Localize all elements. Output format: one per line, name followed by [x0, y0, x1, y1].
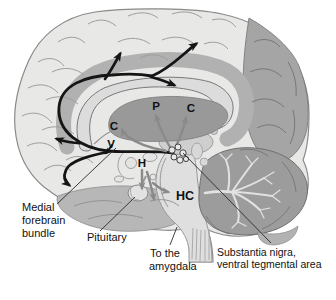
letter-caudate-left: C [110, 120, 118, 132]
label-medial-forebrain-bundle-line3: bundle [22, 227, 55, 239]
letter-ventral-striatum: V [107, 138, 115, 150]
optic-chiasm [115, 176, 124, 182]
vta-cell [171, 154, 177, 160]
label-to-the-amygdala-line2: amygdala [149, 260, 198, 272]
label-medial-forebrain-bundle-line2: forebrain [22, 214, 65, 226]
vta-cell [177, 157, 183, 163]
label-substantia-nigra-line2: ventral tegmental area [217, 258, 322, 270]
letter-hypothalamus: H [138, 157, 146, 169]
label-medial-forebrain-bundle-line1: Medial [22, 201, 54, 213]
hypothalamus-blob [126, 158, 137, 169]
colliculus-bump [192, 143, 203, 159]
letter-hippocampus: HC [176, 189, 194, 203]
occipital-lobe [243, 18, 308, 161]
colliculus-bump [200, 158, 208, 166]
letter-putamen: P [152, 100, 160, 112]
vta-cell [169, 147, 175, 153]
vta-cell [183, 156, 188, 161]
label-substantia-nigra-line1: Substantia nigra, [217, 246, 296, 258]
figure-canvas: P C C V H HC Medial forebrain bundle Pit… [0, 0, 336, 300]
label-pituitary: Pituitary [87, 231, 127, 243]
mammillary-body [150, 174, 156, 180]
label-to-the-amygdala-line1: To the [150, 247, 180, 259]
vta-cell [175, 144, 181, 150]
brain-sagittal-diagram: P C C V H HC Medial forebrain bundle Pit… [0, 0, 336, 300]
letter-caudate-right: C [187, 102, 195, 114]
